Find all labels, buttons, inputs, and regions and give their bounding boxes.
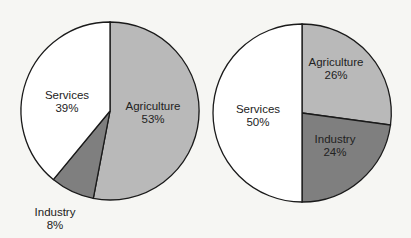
label-name: Industry	[315, 133, 356, 146]
label-name: Agriculture	[309, 56, 364, 69]
label-industry-left: Industry 8%	[35, 206, 76, 232]
label-value: 8%	[35, 219, 76, 232]
label-agriculture-left: Agriculture 53%	[126, 100, 181, 126]
label-value: 50%	[236, 116, 280, 129]
label-value: 24%	[315, 146, 356, 159]
label-value: 53%	[126, 113, 181, 126]
label-industry-right: Industry 24%	[315, 133, 356, 159]
pie-charts-svg	[0, 0, 411, 238]
label-name: Services	[236, 103, 280, 116]
label-value: 26%	[309, 69, 364, 82]
label-name: Services	[45, 89, 89, 102]
label-name: Agriculture	[126, 100, 181, 113]
label-value: 39%	[45, 102, 89, 115]
label-services-left: Services 39%	[45, 89, 89, 115]
chart-stage: Agriculture 53% Services 39% Industry 8%…	[0, 0, 411, 238]
label-agriculture-right: Agriculture 26%	[309, 56, 364, 82]
label-name: Industry	[35, 206, 76, 219]
label-services-right: Services 50%	[236, 103, 280, 129]
